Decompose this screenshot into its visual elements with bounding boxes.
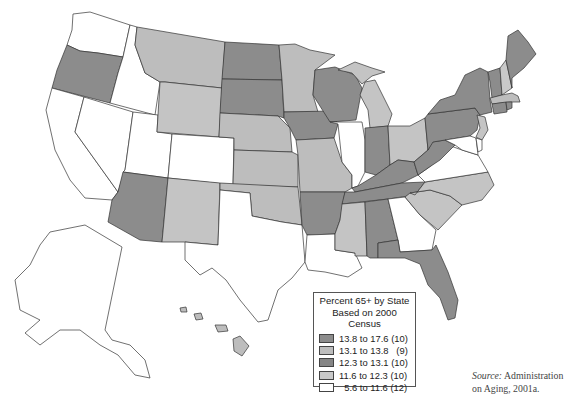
legend-item: 12.3 to 13.1 (10) — [319, 357, 412, 369]
state-hawaii-kauai — [180, 307, 187, 312]
legend-swatch — [319, 383, 334, 392]
legend-swatch — [319, 358, 334, 367]
legend-swatch — [319, 371, 334, 380]
legend-item: 13.8 to 17.6 (10) — [319, 333, 412, 345]
source-text-line1: Administration — [502, 370, 563, 381]
legend-label: 13.1 to 13.8 (9) — [339, 345, 408, 356]
source-text-line2: on Aging, 2001a. — [472, 383, 540, 394]
state-vermont — [488, 68, 502, 98]
state-hawaii-maui — [215, 325, 228, 332]
us-choropleth-map — [0, 0, 566, 401]
map-legend: Percent 65+ by State Based on 2000 Censu… — [313, 292, 416, 387]
legend-title-line2: Based on 2000 Census — [317, 307, 412, 330]
state-rhode-island — [506, 102, 512, 110]
source-label: Source: — [472, 370, 502, 381]
state-new-york — [428, 68, 492, 115]
source-citation: Source: Administration on Aging, 2001a. — [472, 369, 563, 395]
legend-label: 13.8 to 17.6 (10) — [339, 333, 408, 344]
legend-title-line1: Percent 65+ by State — [317, 295, 412, 307]
state-colorado — [168, 134, 234, 185]
legend-item: 11.6 to 12.3 (10) — [319, 369, 412, 381]
legend-swatch — [319, 346, 334, 355]
legend-item: 5.6 to 11.6 (12) — [319, 381, 412, 393]
state-hawaii-big — [233, 336, 249, 356]
legend-label: 12.3 to 13.1 (10) — [339, 357, 408, 368]
state-michigan — [360, 80, 392, 128]
state-connecticut — [492, 102, 507, 114]
state-new-mexico — [162, 178, 220, 245]
legend-swatch — [319, 334, 334, 343]
state-hawaii-oahu — [194, 313, 203, 320]
state-south-dakota — [220, 79, 284, 118]
legend-label: 5.6 to 11.6 (12) — [339, 382, 407, 393]
legend-label: 11.6 to 12.3 (10) — [339, 370, 407, 381]
state-wyoming — [157, 82, 222, 137]
state-kansas — [233, 150, 298, 187]
state-north-dakota — [222, 42, 282, 80]
state-maine — [506, 30, 536, 88]
legend-item: 13.1 to 13.8 (9) — [319, 345, 412, 357]
state-alaska — [15, 225, 150, 378]
